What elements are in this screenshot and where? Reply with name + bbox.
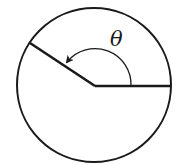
angle-arc-arrow-icon xyxy=(67,49,131,86)
angle-diagram: θ xyxy=(0,0,176,165)
angle-label-theta: θ xyxy=(110,27,123,51)
